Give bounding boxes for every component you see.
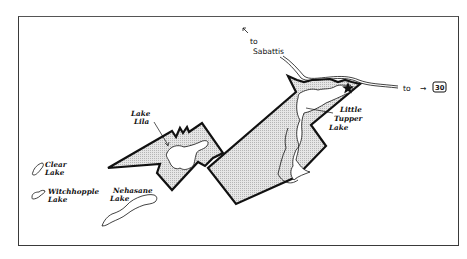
little-tupper-label-3: Lake (328, 123, 349, 132)
to-route-label: to (403, 84, 411, 93)
route-arrow-icon: → (420, 84, 426, 93)
little-tupper-label-1: Little (339, 105, 362, 114)
arrow-nw-icon (243, 28, 248, 33)
witchhopple-lake (32, 190, 45, 199)
west-parcel (108, 123, 223, 190)
nehasane-label-2: Lake (109, 194, 130, 203)
clear-lake (32, 163, 43, 175)
to-sabattis-label-1: to (250, 37, 258, 46)
lake-lila-label-2: Lila (133, 117, 150, 126)
route-number: 30 (435, 84, 445, 92)
little-tupper-label-2: Tupper (334, 114, 364, 123)
map-canvas: to Sabattis to → 30 Little Tupper Lake L… (0, 0, 467, 259)
to-sabattis-label-2: Sabattis (253, 47, 284, 56)
clear-lake-label-2: Lake (44, 168, 65, 177)
witchhopple-label-2: Lake (47, 195, 68, 204)
